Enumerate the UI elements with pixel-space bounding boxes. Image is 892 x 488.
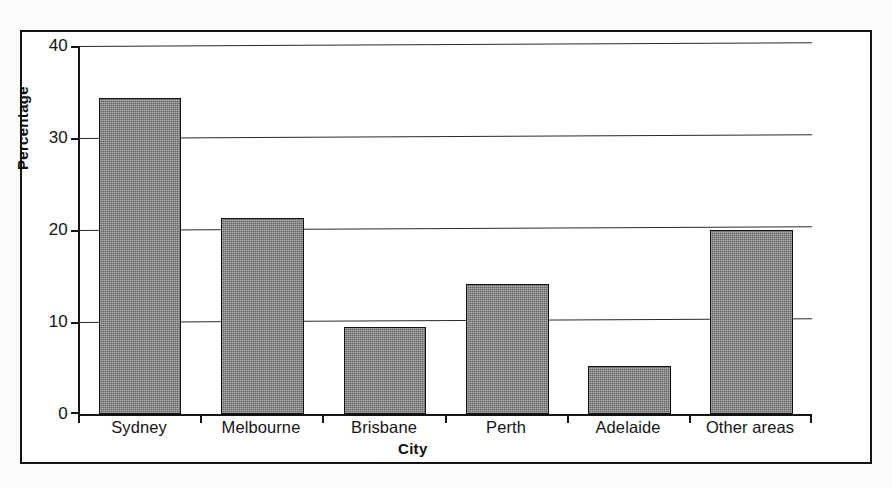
y-axis-title: Percentage bbox=[14, 86, 31, 170]
x-label-other-areas: Other areas bbox=[689, 418, 811, 437]
x-label-adelaide: Adelaide bbox=[567, 418, 689, 437]
x-axis-tick-labels: Sydney Melbourne Brisbane Perth Adelaide… bbox=[78, 418, 812, 442]
bar-series bbox=[78, 46, 812, 414]
y-axis-tick-labels: 40 30 20 10 0 bbox=[36, 46, 68, 414]
x-label-brisbane: Brisbane bbox=[323, 418, 445, 437]
bar-other-areas[interactable] bbox=[710, 230, 793, 414]
x-label-sydney: Sydney bbox=[78, 418, 200, 437]
bar-sydney[interactable] bbox=[99, 98, 181, 414]
x-axis-title: City bbox=[398, 440, 428, 457]
y-tick-0 bbox=[71, 412, 78, 414]
x-label-perth: Perth bbox=[445, 418, 567, 437]
y-tick-label-10: 10 bbox=[49, 312, 68, 332]
y-tick-label-40: 40 bbox=[49, 36, 68, 56]
bar-perth[interactable] bbox=[466, 284, 549, 414]
y-tick-30 bbox=[71, 138, 78, 140]
y-tick-40 bbox=[71, 46, 78, 48]
bar-melbourne[interactable] bbox=[221, 218, 304, 414]
plot-area bbox=[78, 46, 812, 414]
x-label-melbourne: Melbourne bbox=[200, 418, 322, 437]
y-tick-label-30: 30 bbox=[49, 128, 68, 148]
bar-brisbane[interactable] bbox=[344, 327, 426, 414]
y-tick-20 bbox=[71, 230, 78, 232]
bar-adelaide[interactable] bbox=[588, 366, 671, 414]
scanned-page: 40 30 20 10 0 Percentage bbox=[0, 0, 892, 488]
y-tick-label-0: 0 bbox=[58, 404, 68, 424]
y-tick-label-20: 20 bbox=[49, 220, 68, 240]
y-tick-10 bbox=[71, 322, 78, 324]
